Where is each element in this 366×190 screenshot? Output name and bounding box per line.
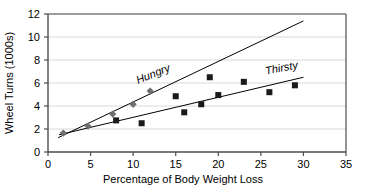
data-point-square <box>207 74 213 80</box>
data-point-square <box>215 92 221 98</box>
chart-container: 05101520253035 024681012 HungryThirsty P… <box>0 0 366 190</box>
y-axis-tick-label: 6 <box>34 77 40 89</box>
x-axis-tick-label: 35 <box>340 158 352 170</box>
y-axis-tick-label: 12 <box>28 8 40 20</box>
x-axis-tick-label: 10 <box>127 158 139 170</box>
x-axis-tick-label: 25 <box>255 158 267 170</box>
y-axis-tick-label: 10 <box>28 31 40 43</box>
x-axis-tick-label: 5 <box>88 158 94 170</box>
data-point-square <box>266 89 272 95</box>
x-axis-title: Percentage of Body Weight Loss <box>103 173 264 185</box>
data-point-square <box>173 93 179 99</box>
data-point-square <box>198 101 204 107</box>
data-point-square <box>181 109 187 115</box>
x-axis-tick-label: 20 <box>212 158 224 170</box>
chart-background <box>0 0 366 190</box>
data-point-square <box>139 120 145 126</box>
wheel-turns-scatter-chart: 05101520253035 024681012 HungryThirsty P… <box>0 0 366 190</box>
x-axis-tick-label: 30 <box>297 158 309 170</box>
data-point-square <box>113 117 119 123</box>
y-axis-tick-label: 0 <box>34 146 40 158</box>
y-axis-tick-label: 4 <box>34 100 40 112</box>
y-axis-tick-label: 2 <box>34 123 40 135</box>
y-axis-tick-label: 8 <box>34 54 40 66</box>
y-axis-title: Wheel Turns (1000s) <box>3 32 15 134</box>
data-point-square <box>241 79 247 85</box>
x-axis-tick-label: 15 <box>170 158 182 170</box>
data-point-square <box>292 82 298 88</box>
x-axis-tick-label: 0 <box>45 158 51 170</box>
